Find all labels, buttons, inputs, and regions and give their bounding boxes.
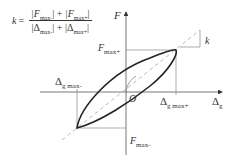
den-a-sub: max- <box>40 29 52 35</box>
den-b-end: | <box>87 22 89 33</box>
y-axis-label: F <box>114 10 121 21</box>
f-max-pos-label: Fmax+ <box>98 43 120 53</box>
formula-lhs: k <box>12 15 16 26</box>
num-b-sub: max+ <box>74 15 88 21</box>
den-b-sub: max+ <box>73 29 87 35</box>
x-axis-label: Δg <box>212 96 223 107</box>
den-plus: + <box>54 22 65 33</box>
num-a: |F <box>31 8 40 19</box>
slope-line <box>62 30 200 140</box>
formula-numerator: |Fmax-| + |Fmax+| <box>29 8 91 21</box>
d-max-pos-label: Δg max+ <box>160 96 188 107</box>
d-max-neg-label: Δg max- <box>55 76 82 87</box>
num-b: |F <box>65 8 74 19</box>
num-a-sub: max- <box>40 15 52 21</box>
f-max-neg-label: Fmax- <box>130 136 151 146</box>
f-max-neg-sub: max- <box>136 141 150 149</box>
formula-fraction: |Fmax-| + |Fmax+| |Δmax-| + |Δmax+| <box>29 8 91 33</box>
formula-equals: = <box>18 15 24 26</box>
d-max-pos-sub: g max+ <box>167 102 188 110</box>
den-a: |Δ <box>32 22 40 33</box>
stiffness-formula: k = |Fmax-| + |Fmax+| |Δmax-| + |Δmax+| <box>12 8 92 33</box>
slope-k-label: k <box>205 36 209 46</box>
d-max-neg-sub: g max- <box>62 82 82 90</box>
x-axis-sub: g <box>219 102 223 110</box>
origin-label: O <box>129 94 136 104</box>
f-max-pos-sub: max+ <box>104 48 120 56</box>
initial-loading-curve <box>126 76 136 92</box>
formula-denominator: |Δmax-| + |Δmax+| <box>30 21 92 33</box>
num-plus: + <box>54 8 65 19</box>
